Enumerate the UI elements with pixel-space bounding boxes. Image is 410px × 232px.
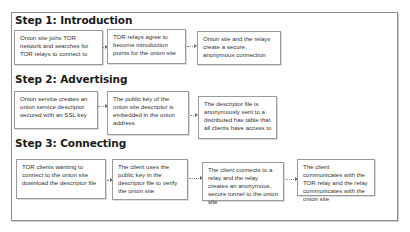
step-2-heading: Step 2: Advertising — [15, 73, 127, 85]
step-3-heading: Step 3: Connecting — [15, 137, 126, 149]
arrow-icon — [187, 46, 195, 48]
arrow-icon — [189, 178, 201, 180]
arrow-icon — [190, 115, 196, 117]
step-3-box-3: The client connects to a relay and the r… — [202, 162, 284, 201]
arrow-icon — [285, 179, 296, 181]
step-1-box-3: Onion site and the relays create a secur… — [197, 31, 281, 65]
step-3-box-1: TOR clients wanting to connect to the on… — [16, 159, 106, 199]
step-1-heading: Step 1: Introduction — [15, 14, 132, 26]
step-3-box-4: The client communicates with the TOR rel… — [297, 159, 375, 196]
arrow-icon — [103, 47, 106, 49]
step-2-box-3: The descriptor file is anonymously sent … — [198, 96, 277, 139]
step-2-box-1: Onion service creates an onion service d… — [14, 91, 98, 129]
arrow-icon — [107, 180, 111, 182]
step-1-box-2: TOR relays agree to become introduction … — [107, 29, 186, 64]
arrow-icon — [98, 106, 106, 108]
step-2-box-2: The public key of the onion site descrip… — [107, 91, 189, 135]
step-1-box-1: Onion site joins TOR network and searche… — [14, 30, 103, 65]
step-3-box-2: The client uses the public key in the de… — [112, 159, 188, 200]
